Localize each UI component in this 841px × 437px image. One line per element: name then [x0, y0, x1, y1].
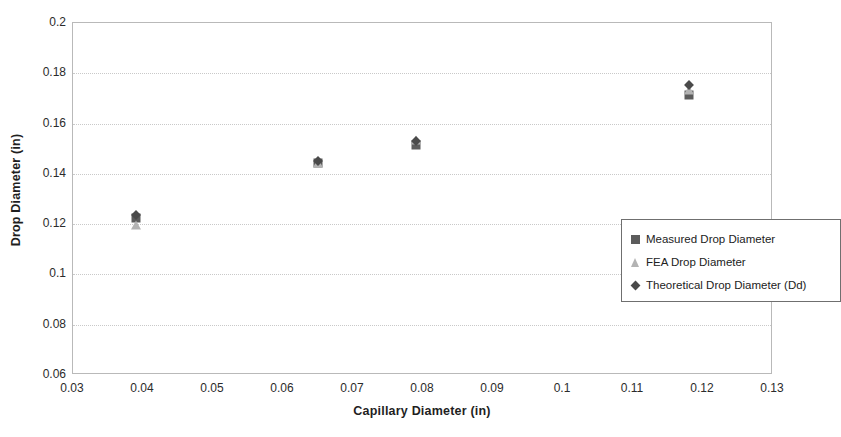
- legend-square-icon: [630, 233, 642, 245]
- gridline: [73, 174, 771, 175]
- x-tick-label: 0.07: [322, 381, 382, 395]
- x-tick-label: 0.06: [252, 381, 312, 395]
- y-tick-label: 0.14: [26, 166, 66, 180]
- gridline: [73, 73, 771, 74]
- x-tick-label: 0.05: [182, 381, 242, 395]
- x-tick-label: 0.13: [742, 381, 802, 395]
- x-tick-label: 0.11: [602, 381, 662, 395]
- gridline: [73, 325, 771, 326]
- y-tick-label: 0.16: [26, 116, 66, 130]
- x-tick-label: 0.12: [672, 381, 732, 395]
- x-tick-label: 0.09: [462, 381, 522, 395]
- legend-triangle-icon: [630, 256, 642, 268]
- y-tick-label: 0.08: [26, 317, 66, 331]
- legend-item-label: FEA Drop Diameter: [646, 256, 746, 268]
- y-tick-label: 0.18: [26, 65, 66, 79]
- x-tick-label: 0.1: [532, 381, 592, 395]
- data-point-triangle: [131, 221, 141, 230]
- chart-legend: Measured Drop DiameterFEA Drop DiameterT…: [621, 219, 841, 302]
- plot-area: Measured Drop DiameterFEA Drop DiameterT…: [72, 22, 772, 374]
- legend-item-label: Theoretical Drop Diameter (Dd): [646, 279, 806, 291]
- x-tick-label: 0.03: [42, 381, 102, 395]
- legend-item: Measured Drop Diameter: [630, 227, 832, 250]
- x-axis-title: Capillary Diameter (in): [72, 404, 772, 418]
- y-axis-title-text: Drop Diameter (in): [9, 134, 23, 247]
- legend-item-label: Measured Drop Diameter: [646, 233, 775, 245]
- legend-diamond-icon: [630, 279, 642, 291]
- x-axis-tick-labels: 0.030.040.050.060.070.080.090.10.110.120…: [0, 381, 796, 401]
- y-tick-label: 0.06: [26, 367, 66, 381]
- y-axis-tick-labels: 0.060.080.10.120.140.160.180.2: [22, 0, 66, 437]
- y-tick-label: 0.12: [26, 216, 66, 230]
- legend-item: Theoretical Drop Diameter (Dd): [630, 273, 832, 296]
- x-tick-label: 0.08: [392, 381, 452, 395]
- legend-item: FEA Drop Diameter: [630, 250, 832, 273]
- x-tick-label: 0.04: [112, 381, 172, 395]
- gridline: [73, 124, 771, 125]
- y-tick-label: 0.2: [26, 15, 66, 29]
- y-tick-label: 0.1: [26, 266, 66, 280]
